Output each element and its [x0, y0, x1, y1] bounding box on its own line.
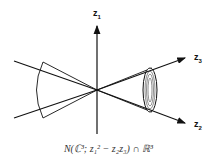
z3-label: z3	[194, 52, 202, 64]
z2-axis	[97, 90, 185, 123]
caption: N(ℂ³; z₁² − z₂z₃) ∩ ℝ³	[0, 143, 217, 154]
cone-diagram	[0, 0, 217, 159]
cone-line-lower-left	[14, 90, 97, 118]
right-cone-cap	[143, 68, 157, 112]
z3-axis	[97, 58, 185, 90]
cone-line-upper-left	[14, 61, 97, 90]
z2-label: z2	[194, 119, 202, 131]
z1-label: z1	[93, 8, 101, 20]
